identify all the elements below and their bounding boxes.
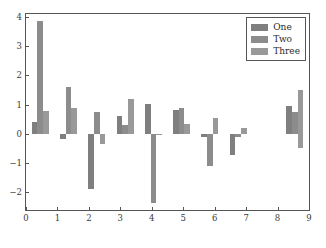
x-tick-mark [278,207,279,210]
bar-three-7 [241,128,247,134]
legend-item: Three [251,45,300,57]
y-tick-label: −2 [9,188,22,197]
bar-three-4 [156,134,162,135]
x-tick-label: 8 [275,214,280,223]
y-tick-mark [26,192,29,193]
x-tick-label: 9 [306,214,311,223]
legend-label-one: One [273,23,292,32]
x-tick-mark [246,207,247,210]
x-tick-mark [120,207,121,210]
legend-swatch-three [251,48,268,55]
x-tick-mark [26,207,27,210]
x-tick-label: 0 [23,214,28,223]
legend-swatch-two [251,36,268,43]
x-tick-label: 4 [149,214,154,223]
x-tick-label: 7 [243,214,248,223]
legend-label-three: Three [273,47,300,56]
y-tick-mark [26,75,29,76]
bar-three-0 [43,111,49,134]
y-tick-label: 4 [17,13,22,22]
legend-swatch-one [251,24,268,31]
x-tick-mark [152,207,153,210]
y-tick-label: 2 [17,71,22,80]
bar-last-2 [298,90,304,134]
bar-two-2 [94,112,100,134]
legend-item: Two [251,33,300,45]
y-tick-label: −1 [9,159,22,168]
bar-three-1 [71,108,77,133]
y-tick-label: 0 [17,130,22,139]
bar-three-6 [213,118,219,134]
x-tick-label: 1 [55,214,60,223]
x-tick-label: 3 [118,214,123,223]
plot-area: 43210−1−2 0123456789 One Two Three [25,13,310,211]
y-tick-mark [26,134,29,135]
bar-three-2 [100,134,106,144]
x-tick-label: 2 [86,214,91,223]
chart-canvas: 43210−1−2 0123456789 One Two Three [0,0,326,248]
bar-one-7 [230,134,236,155]
y-tick-mark [26,105,29,106]
bar-one-4 [145,104,151,134]
bar-two-7 [235,134,241,137]
legend: One Two Three [246,17,306,61]
y-tick-mark [26,17,29,18]
bar-one-1 [60,134,66,139]
y-tick-label: 3 [17,42,22,51]
x-tick-label: 6 [212,214,217,223]
y-tick-mark [26,163,29,164]
bar-three-5 [184,124,190,134]
bar-three-8 [298,134,304,148]
bar-three-3 [128,99,134,134]
x-tick-mark [57,207,58,210]
bar-two-4 [151,134,157,203]
legend-label-two: Two [273,35,292,44]
y-tick-mark [26,46,29,47]
x-tick-mark [89,207,90,210]
x-tick-mark [183,207,184,210]
bar-one-2 [88,134,94,189]
bar-two-6 [207,134,213,166]
x-tick-mark [309,207,310,210]
x-tick-label: 5 [181,214,186,223]
legend-item: One [251,21,300,33]
x-tick-mark [215,207,216,210]
y-tick-label: 1 [17,100,22,109]
